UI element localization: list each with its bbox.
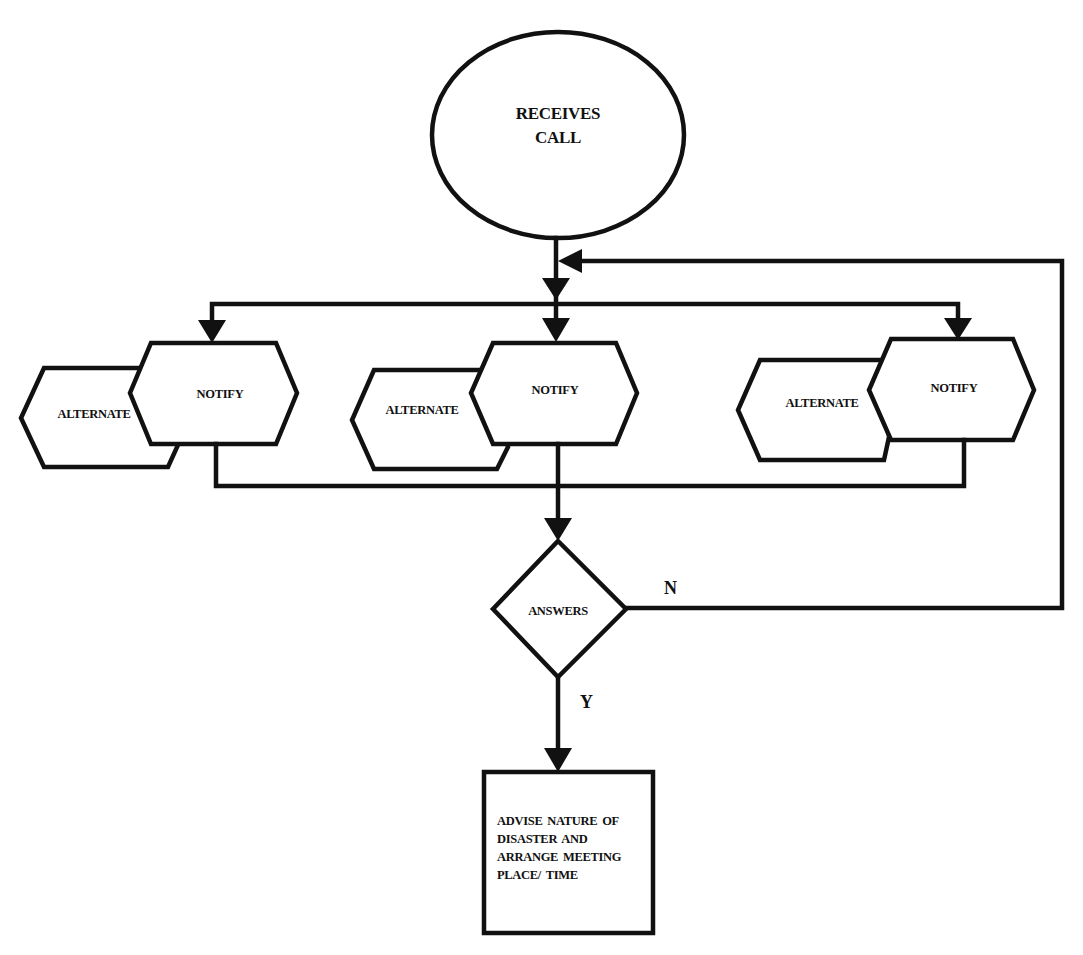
end-label: ADVISE NATURE OF DISASTER AND ARRANGE ME… xyxy=(497,812,647,884)
start-label-line-2: CALL xyxy=(478,126,638,150)
start-label-line-1: RECEIVES xyxy=(478,102,638,126)
alternate-label-right: ALTERNATE xyxy=(766,396,878,411)
end-label-line-1: ADVISE NATURE OF xyxy=(497,812,647,830)
alternate-label-middle: ALTERNATE xyxy=(366,403,478,418)
notify-label-middle: NOTIFY xyxy=(505,383,605,398)
yes-branch-label: Y xyxy=(580,692,593,713)
arrowhead-down-1 xyxy=(542,278,570,300)
end-label-line-2: DISASTER AND xyxy=(497,830,647,848)
arrowhead-right-group xyxy=(944,318,972,340)
no-branch-label: N xyxy=(664,578,677,599)
end-label-line-3: ARRANGE MEETING xyxy=(497,848,647,866)
arrowhead-loop xyxy=(558,249,582,273)
distribution-bus xyxy=(212,304,958,324)
flowchart-canvas: RECEIVES CALL ALTERNATE NOTIFY ALTERNATE… xyxy=(0,0,1083,955)
notify-label-right: NOTIFY xyxy=(904,381,1004,396)
notify-label-left: NOTIFY xyxy=(170,387,270,402)
start-label: RECEIVES CALL xyxy=(478,102,638,150)
arrowhead-down-2 xyxy=(542,318,570,342)
arrowhead-left-group xyxy=(198,320,226,343)
arrowhead-to-decision xyxy=(544,518,572,541)
decision-label: ANSWERS xyxy=(508,604,608,619)
end-label-line-4: PLACE/ TIME xyxy=(497,866,647,884)
arrowhead-to-end xyxy=(544,748,572,772)
alternate-label-left: ALTERNATE xyxy=(38,407,150,422)
